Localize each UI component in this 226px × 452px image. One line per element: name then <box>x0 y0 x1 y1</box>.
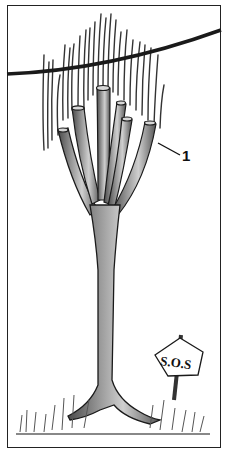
callout-label-1: 1 <box>182 147 190 164</box>
tree-illustration: S.O.S <box>0 0 226 452</box>
callout-leader <box>158 143 180 155</box>
sos-sign: S.O.S <box>155 335 203 400</box>
tree-trunk <box>68 205 160 424</box>
